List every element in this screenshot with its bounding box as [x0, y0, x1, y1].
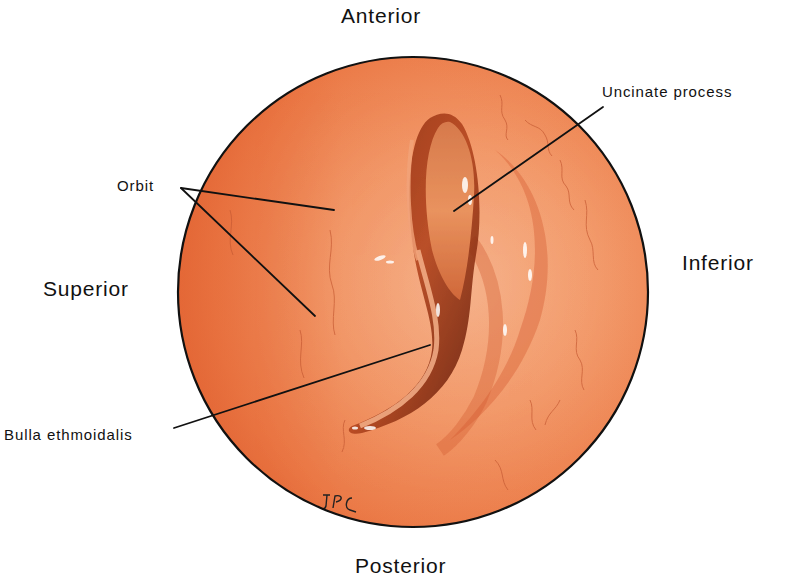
label-orbit: Orbit	[117, 178, 154, 193]
label-posterior: Posterior	[355, 555, 446, 576]
label-anterior: Anterior	[341, 5, 421, 26]
label-uncinate-process: Uncinate process	[602, 84, 732, 99]
label-inferior: Inferior	[682, 252, 754, 273]
label-superior: Superior	[43, 278, 129, 299]
label-bulla-ethmoidalis: Bulla ethmoidalis	[4, 427, 133, 442]
endoscopic-field	[178, 57, 648, 527]
